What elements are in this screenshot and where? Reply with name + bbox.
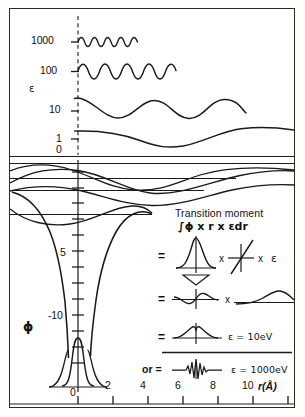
x-axis [10,396,294,404]
curve-100ev [78,64,176,79]
tm-r-diagonal-icon [231,240,253,274]
y-tick-0: 0 [56,144,62,155]
epsilon-1000ev-label: ε = 1000eV [231,365,288,375]
curve-1ev [78,128,294,148]
times-row1-a: x [219,254,224,264]
tm-row3-diagrams [162,323,292,353]
panel-divider [10,157,294,164]
curve-10ev-left-stub [74,98,78,99]
x-tick-8: 8 [210,380,216,391]
transition-moment-formula: ∫ϕ x r x εdr [178,221,248,232]
times-row1-b: x [258,254,263,264]
tm-row2-diagrams [172,289,294,309]
x-tick-2: 2 [105,380,111,391]
potential-left-branch [12,192,69,358]
y-axis-label-phi: ϕ [23,320,33,333]
orbital-curve-c [10,185,294,206]
equals-row1: = [158,250,165,262]
transition-moment-title: Transition moment [175,208,263,219]
figure-container: 1000 100 10 1 0 ε 5 -10 ϕ Transition mom… [0,0,305,417]
x-tick-10: 10 [242,380,253,391]
x-tick-6: 6 [175,380,181,391]
y-tick-100: 100 [40,65,57,76]
or-equals-row4: or = [142,364,162,375]
equals-row2: = [158,293,165,305]
x-tick-0: 0 [70,387,76,398]
curve-10ev [78,98,246,119]
y-tick-minus10: -10 [48,310,63,321]
y-tick-1: 1 [56,133,62,144]
tm-down-triangle [183,275,209,285]
curve-1000ev [78,38,137,47]
y-tick-1000: 1000 [31,35,54,46]
y-tick-10: 10 [49,104,60,115]
times-row2: x [225,295,230,305]
potential-right-branch [91,212,153,356]
lower-panel-curves [10,160,294,392]
epsilon-row1: ε [271,253,277,264]
x-tick-4: 4 [140,380,146,391]
x-axis-ticks [78,396,288,404]
equals-row3: = [158,331,165,343]
density-hump-left [49,350,69,387]
epsilon-10ev-label: ε = 10eV [228,332,272,342]
tm-wavepacket-1000ev-icon [172,359,222,379]
y-tick-5: 5 [60,247,66,258]
tm-row4-diagrams [172,359,222,379]
x-axis-label: r(Å) [258,381,277,392]
tm-row1-diagrams [176,236,254,285]
y-axis-label-epsilon: ε [29,84,34,94]
upper-panel-curves [71,16,294,155]
